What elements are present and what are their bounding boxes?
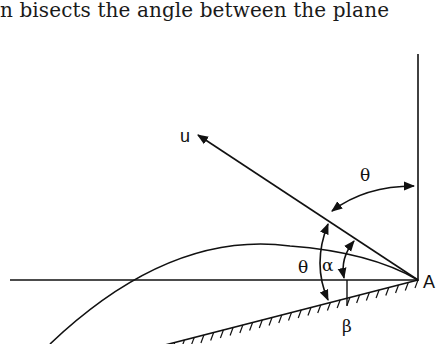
inclined-plane	[165, 280, 418, 344]
point-a-label: A	[423, 272, 435, 292]
beta-label: β	[342, 316, 352, 336]
velocity-label: u	[180, 126, 190, 146]
projectile-incline-diagram: u A θ θ α β	[0, 0, 444, 344]
theta-top-label: θ	[360, 165, 370, 185]
angle-arc-alpha	[343, 241, 354, 278]
alpha-label: α	[322, 255, 334, 275]
theta-left-label: θ	[298, 257, 308, 277]
angle-arc-theta-top	[332, 186, 414, 211]
